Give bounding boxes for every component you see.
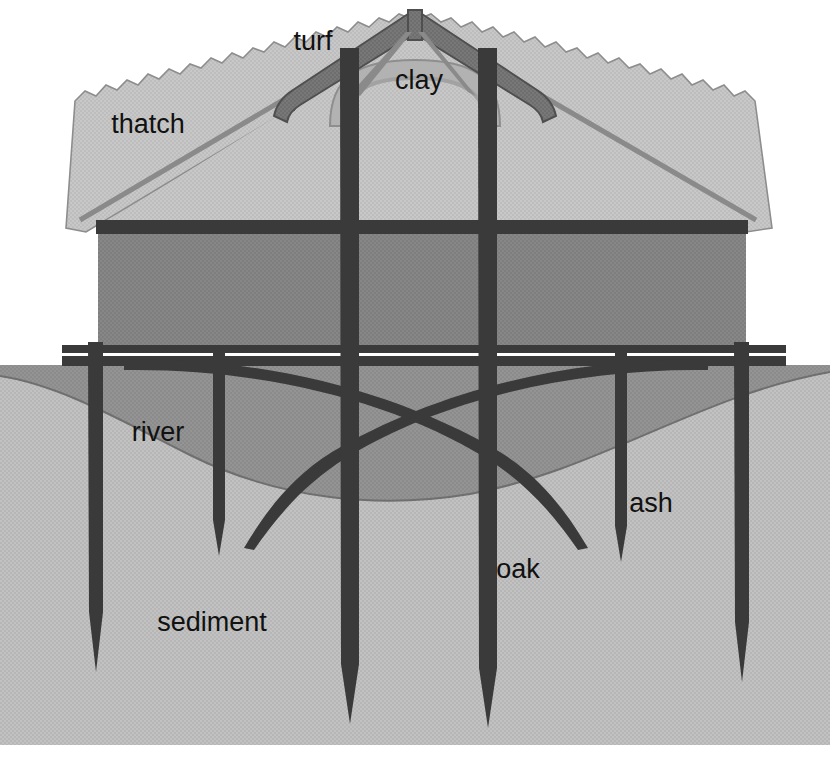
pile-6-oak (734, 342, 749, 682)
pile-4-oak-full-height (478, 48, 497, 728)
ridge-apex-block (408, 10, 422, 40)
building-cross-section-illustration: turf clay thatch river ash oak sediment (0, 0, 830, 762)
pile-2-ash (213, 352, 225, 556)
floor-beam-upper (62, 345, 786, 353)
label-river: river (132, 417, 185, 447)
diagram-root: turf clay thatch river ash oak sediment (0, 0, 830, 762)
label-clay: clay (395, 65, 444, 95)
pile-1-oak (88, 342, 103, 672)
upper-tie-beam (96, 220, 748, 234)
pile-5-ash (615, 352, 627, 562)
pile-3-oak-full-height (340, 48, 359, 724)
label-ash: ash (629, 488, 673, 518)
wall-group (96, 220, 748, 350)
upper-storey-wall (98, 222, 746, 350)
label-thatch: thatch (111, 109, 185, 139)
label-turf: turf (293, 26, 333, 56)
label-sediment: sediment (157, 607, 267, 637)
label-oak: oak (496, 554, 540, 584)
